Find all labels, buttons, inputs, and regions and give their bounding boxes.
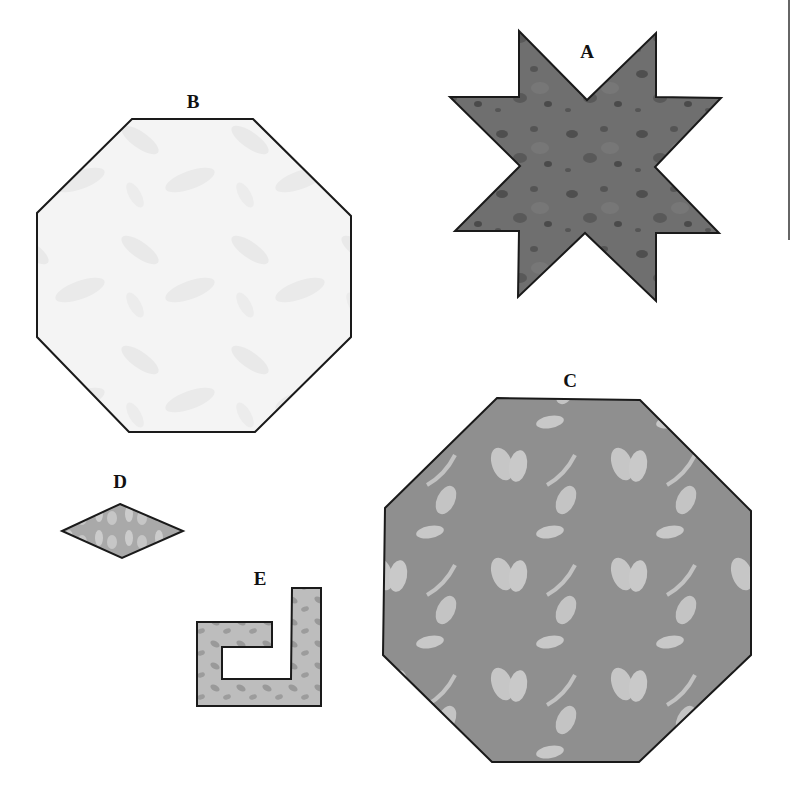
label-d: D [113,471,127,492]
piece-a-star: A [450,31,721,301]
label-b: B [187,91,200,112]
piece-b-octagon: B [37,91,351,432]
quilt-pieces-diagram: A B C D E [0,0,790,797]
label-a: A [580,41,594,62]
label-e: E [254,568,267,589]
piece-c-octagon: C [383,370,751,762]
piece-d-diamond: D [62,471,183,558]
label-c: C [563,370,577,391]
piece-e-hook: E [197,568,321,706]
